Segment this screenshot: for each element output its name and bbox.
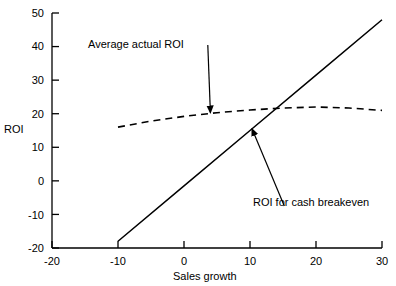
x-tick-label: 20: [300, 256, 332, 267]
annotation-roi-cash-breakeven: ROI for cash breakeven: [253, 196, 369, 208]
y-tick-label: 30: [14, 75, 44, 86]
y-tick-label: 0: [14, 176, 44, 187]
y-tick-label: 10: [14, 142, 44, 153]
y-axis-ticks: [52, 13, 59, 248]
chart-container: 50 40 30 20 10 0 -10 -20 -20 -10 0 10 20…: [0, 0, 396, 286]
x-tick-label: 0: [168, 256, 200, 267]
y-tick-label: -20: [10, 243, 44, 254]
annotation-leader-roi-cash-breakeven: [252, 129, 284, 206]
y-tick-label: 20: [14, 109, 44, 120]
x-axis-ticks: [52, 241, 382, 248]
y-tick-label: 40: [14, 41, 44, 52]
y-tick-label: -10: [10, 210, 44, 221]
x-tick-label: 10: [234, 256, 266, 267]
y-tick-label: 50: [14, 8, 44, 19]
x-tick-label: 30: [366, 256, 396, 267]
y-axis-title: ROI: [4, 124, 24, 135]
annotation-leader-average-actual-roi: [208, 45, 211, 113]
series-average-actual-roi: [118, 107, 382, 127]
x-tick-label: -20: [36, 256, 68, 267]
chart-plot-area: [0, 0, 396, 286]
series-roi-cash-breakeven: [118, 20, 382, 242]
x-axis-title: Sales growth: [173, 271, 237, 282]
x-tick-label: -10: [102, 256, 134, 267]
annotation-average-actual-roi: Average actual ROI: [88, 38, 184, 50]
